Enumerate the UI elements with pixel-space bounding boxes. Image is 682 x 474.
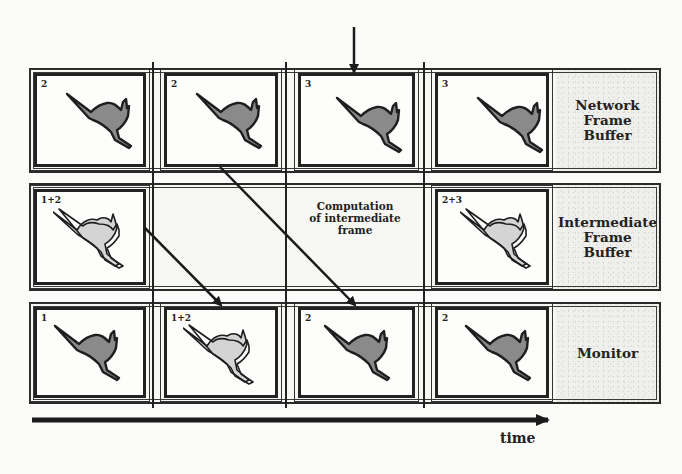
blended-kangaroo-icon: [53, 206, 133, 274]
frame-number: 3: [305, 79, 311, 89]
frame-intermediate-col4: 2+3: [435, 189, 549, 285]
frame-number: 2+3: [442, 195, 462, 205]
frame-number: 1: [41, 313, 47, 323]
kangaroo-icon: [476, 94, 556, 162]
frame-network-col2: 2: [164, 73, 278, 167]
frame-number: 2: [171, 79, 177, 89]
row-label-area: Monitor: [556, 304, 659, 402]
time-divider: [152, 62, 154, 408]
frame-network-col4: 3: [435, 73, 549, 167]
row-label-area: Network Frame Buffer: [556, 70, 659, 171]
frame-intermediate-col1: 1+2: [34, 189, 146, 285]
frame-monitor-col3: 2: [298, 307, 415, 398]
row-label: Monitor: [577, 346, 638, 361]
row-label: Intermediate Frame Buffer: [558, 215, 657, 260]
blended-kangaroo-icon: [460, 206, 540, 274]
row-label: Network Frame Buffer: [575, 98, 639, 143]
row-label-area: Intermediate Frame Buffer: [556, 185, 659, 289]
time-divider: [423, 62, 425, 408]
kangaroo-icon: [335, 94, 415, 162]
frame-monitor-col4: 2: [435, 307, 549, 398]
frame-number: 2: [41, 79, 47, 89]
kangaroo-icon: [65, 90, 145, 158]
frame-network-col1: 2: [34, 73, 146, 167]
frame-monitor-col1: 1: [34, 307, 146, 398]
blended-kangaroo-icon: [183, 322, 263, 390]
frame-number: 2: [442, 313, 448, 323]
kangaroo-icon: [464, 322, 544, 390]
kangaroo-icon: [323, 322, 403, 390]
time-divider: [285, 62, 287, 408]
frame-number: 3: [442, 79, 448, 89]
kangaroo-icon: [195, 90, 275, 158]
time-axis-label: time: [500, 430, 536, 446]
computation-annotation: Computation of intermediate frame: [290, 200, 420, 236]
frame-number: 2: [305, 313, 311, 323]
frame-network-col3: 3: [298, 73, 415, 167]
frame-monitor-col2: 1+2: [164, 307, 278, 398]
frame-number: 1+2: [41, 195, 61, 205]
kangaroo-icon: [53, 322, 133, 390]
